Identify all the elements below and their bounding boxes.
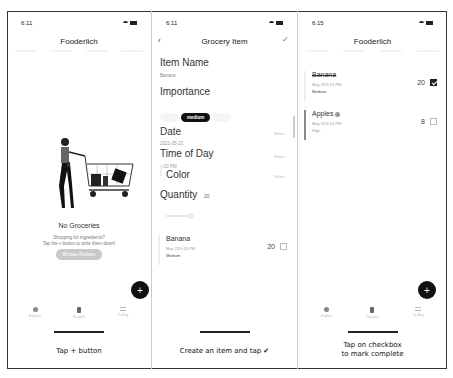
status-bar: 6:11 (19, 20, 139, 30)
tab-to-buy[interactable]: To Buy (105, 307, 141, 319)
battery-icon (276, 21, 283, 25)
item-date: May 23 6:14 PM (312, 121, 341, 126)
item-quantity: 20 (417, 79, 425, 86)
time-select-button[interactable]: Select (274, 154, 285, 159)
top-tabs (306, 50, 439, 54)
status-bar: 6:15 (310, 20, 435, 30)
item-name: Banana (312, 71, 336, 78)
quantity-slider-track[interactable] (166, 215, 190, 217)
tab-recipes[interactable]: Recipes (354, 307, 390, 319)
battery-icon (426, 21, 433, 25)
add-item-fab[interactable]: + (418, 281, 436, 299)
panel-grocery-list: 6:15 Fooderlich Banana May 23 6:14 PM Me… (298, 11, 447, 369)
importance-chip-medium[interactable]: medium (181, 113, 210, 122)
empty-state-subtitle: Shopping for ingredients? Tap the + butt… (7, 235, 151, 247)
top-tabs (15, 50, 143, 54)
quantity-value: 20 (204, 193, 210, 199)
book-icon (370, 307, 374, 313)
empty-subtitle-line2: Tap the + button to write them down! (7, 241, 151, 247)
wifi-icon (419, 21, 424, 25)
item-color-bar (158, 235, 160, 265)
status-icons (419, 20, 433, 26)
compass-icon (33, 307, 38, 312)
item-importance: Medium (312, 89, 326, 94)
color-swatch (160, 164, 162, 176)
item-quantity: 8 (421, 118, 425, 125)
status-time: 6:15 (312, 20, 324, 26)
tab-recipes[interactable]: Recipes (61, 307, 97, 319)
grocery-list-item[interactable]: Apples May 23 6:14 PM High 8 (304, 108, 441, 142)
browse-recipes-button[interactable]: Browse Recipes (56, 249, 102, 260)
bottom-tab-bar: Explore Recipes To Buy (304, 307, 441, 319)
importance-chip-high[interactable]: high (213, 113, 231, 122)
grocery-list-item[interactable]: Banana May 23 6:14 PM Medium 20 (304, 69, 441, 103)
quantity-label: Quantity (160, 189, 197, 200)
app-title: Fooderlich (7, 37, 151, 46)
date-label: Date (160, 126, 181, 137)
battery-icon (130, 21, 137, 25)
status-time: 6:11 (21, 20, 32, 26)
caption: Tap + button (7, 347, 151, 356)
item-color-bar (304, 110, 306, 140)
date-select-button[interactable]: Select (274, 131, 285, 136)
home-indicator (348, 331, 398, 333)
home-indicator (54, 331, 104, 333)
save-check-button[interactable]: ✓ (282, 35, 289, 44)
quantity-slider-knob[interactable] (188, 213, 194, 219)
list-icon (120, 307, 126, 311)
color-label: Color (166, 169, 190, 180)
caption-line1: Tap on checkbox (298, 341, 447, 350)
item-importance: Medium (166, 253, 180, 258)
time-of-day-label: Time of Day (160, 148, 214, 159)
tab-explore[interactable]: Explore (17, 307, 53, 319)
panel-empty-state: 6:11 Fooderlich No Groceries Shopping fo… (7, 11, 152, 369)
importance-label: Importance (160, 86, 210, 97)
list-icon (415, 307, 421, 311)
status-bar: 6:11 (164, 20, 285, 30)
importance-chip-low[interactable]: low (160, 113, 178, 122)
item-checkbox[interactable] (280, 243, 287, 250)
wifi-icon (123, 21, 128, 25)
item-name-label: Item Name (160, 57, 209, 68)
item-color-bar (304, 71, 306, 101)
status-time: 6:11 (166, 20, 177, 26)
bottom-tab-bar: Explore Recipes To Buy (13, 307, 145, 319)
importance-chips: low medium high (160, 113, 231, 122)
item-name-input[interactable]: Banana (160, 73, 176, 78)
empty-state-title: No Groceries (7, 222, 151, 229)
grocery-item-preview: Banana May 23 6:10 PM Medium 20 (158, 233, 291, 267)
status-icons (269, 20, 283, 26)
item-date: May 23 6:14 PM (312, 82, 341, 87)
app-title: Fooderlich (298, 37, 447, 46)
home-indicator (200, 331, 250, 333)
color-dot-icon (335, 112, 340, 117)
shopping-cart-illustration (29, 136, 139, 216)
item-name: Banana (166, 235, 190, 242)
panel-grocery-item-form: 6:11 ‹ Grocery Item ✓ Item Name Banana I… (152, 11, 298, 369)
caption-line2: to mark complete (298, 350, 447, 359)
item-date: May 23 6:10 PM (166, 246, 195, 251)
screen-title: Grocery Item (152, 37, 297, 46)
caption: Create an item and tap ✔ (152, 347, 297, 356)
compass-icon (324, 307, 329, 312)
caption: Tap on checkbox to mark complete (298, 341, 447, 359)
status-icons (123, 20, 137, 26)
item-name: Apples (312, 110, 340, 117)
item-quantity: 20 (267, 243, 275, 250)
scrollbar[interactable] (293, 116, 295, 138)
date-value: 2021-05-23 (160, 141, 183, 146)
wifi-icon (269, 21, 274, 25)
color-select-button[interactable]: Select (274, 174, 285, 179)
tab-explore[interactable]: Explore (309, 307, 345, 319)
book-icon (77, 307, 81, 313)
tab-to-buy[interactable]: To Buy (400, 307, 436, 319)
item-checkbox[interactable] (430, 118, 437, 125)
add-item-fab[interactable]: + (131, 281, 149, 299)
item-checkbox-checked[interactable] (430, 79, 437, 86)
item-importance: High (312, 128, 320, 133)
